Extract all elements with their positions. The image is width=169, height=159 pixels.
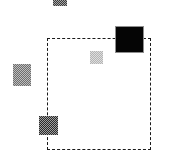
diagram-canvas (0, 0, 169, 159)
square-top-clipped[interactable] (53, 0, 67, 6)
square-bottom-dark[interactable] (39, 116, 58, 135)
square-left-gray[interactable] (13, 64, 31, 86)
square-large-black[interactable] (115, 26, 144, 53)
square-center-light[interactable] (90, 51, 103, 64)
